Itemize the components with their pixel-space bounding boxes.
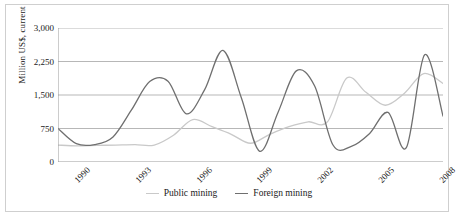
x-tick-label: 2002 [315,165,335,185]
x-tick-label: 2005 [376,165,396,185]
y-tick-label: 750 [41,124,55,134]
x-tick-label: 1990 [72,165,92,185]
legend-line-icon [146,193,159,194]
y-tick-label: 1,500 [34,90,54,100]
legend-label: Public mining [164,188,218,198]
legend-item[interactable]: Public mining [146,188,218,198]
series-lines [58,50,443,151]
plot-svg [58,28,443,162]
y-tick-label: 0 [50,157,55,167]
series-line [58,50,443,151]
legend-line-icon [235,193,248,194]
x-tick-label: 1996 [194,165,214,185]
series-line [58,73,443,146]
x-tick-label: 1999 [255,165,275,185]
chart-legend: Public miningForeign mining [0,188,458,198]
plot-area [58,28,443,162]
y-tick-label: 2,250 [34,57,54,67]
legend-label: Foreign mining [253,188,312,198]
chart-figure: Million US$, current 07501,5002,2503,000… [0,0,458,222]
legend-item[interactable]: Foreign mining [235,188,312,198]
y-axis-tick-labels: 07501,5002,2503,000 [14,28,54,162]
y-tick-label: 3,000 [34,23,54,33]
gridlines [58,28,443,162]
x-tick-label: 1993 [133,165,153,185]
x-tick-label: 2008 [437,165,457,185]
